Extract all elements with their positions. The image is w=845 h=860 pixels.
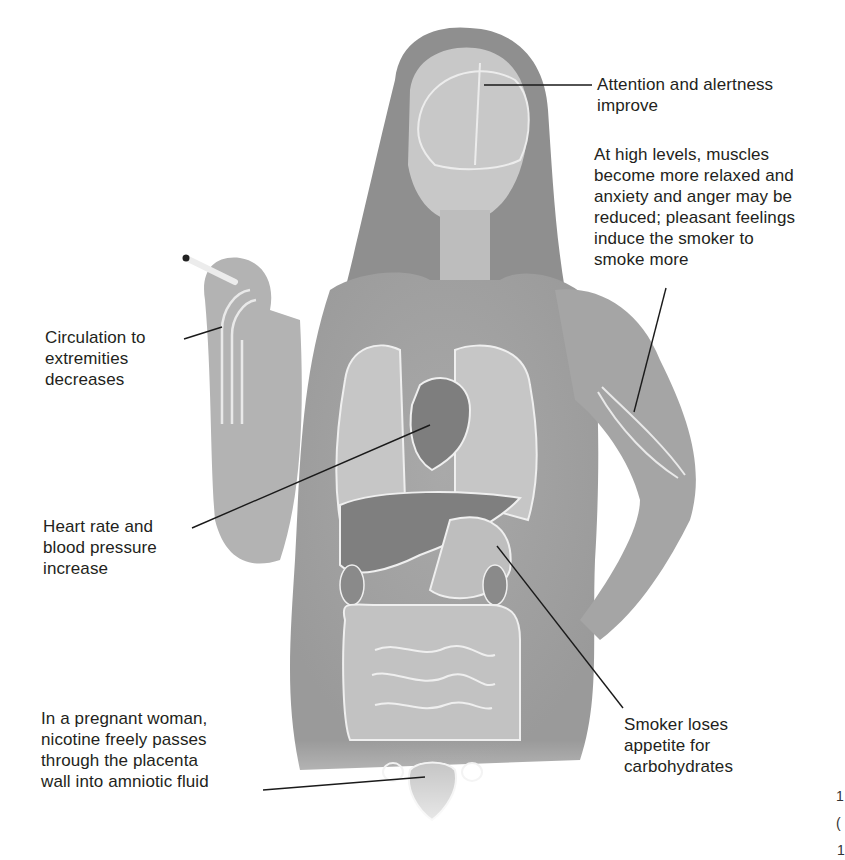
edge-fragment: 1 — [836, 788, 844, 804]
callout-heart: Heart rate and blood pressure increase — [43, 516, 157, 579]
callout-pregnancy: In a pregnant woman, nicotine freely pas… — [41, 708, 209, 792]
intestines — [343, 604, 520, 740]
neck — [440, 210, 490, 280]
left-arm — [204, 258, 302, 564]
kidney-right — [483, 565, 507, 605]
callout-appetite: Smoker loses appetite for carbohydrates — [624, 714, 733, 777]
callout-circulation: Circulation to extremities decreases — [45, 327, 146, 390]
kidney-left — [340, 565, 364, 605]
callout-brain: Attention and alertness improve — [597, 74, 773, 116]
edge-fragment: 1 — [837, 842, 845, 858]
edge-fragment: ( — [836, 815, 841, 831]
callout-muscles: At high levels, muscles become more rela… — [594, 144, 795, 270]
